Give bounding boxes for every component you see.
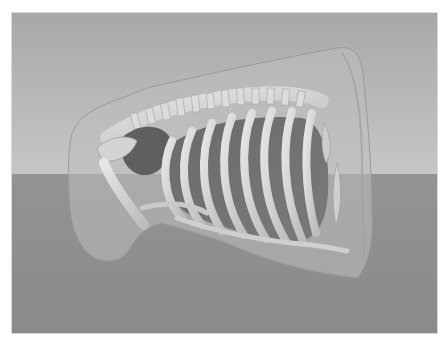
render-viewport[interactable] (12, 13, 437, 333)
torso-render (12, 13, 437, 333)
